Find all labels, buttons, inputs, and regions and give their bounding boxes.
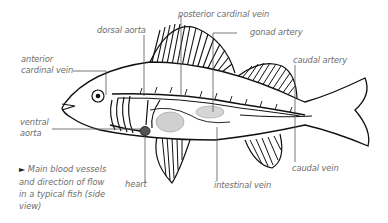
label-anterior-line2: cardinal vein (21, 65, 73, 76)
caption-arrow-icon: ► (19, 165, 25, 174)
label-intestinal-vein: intestinal vein (214, 180, 271, 191)
label-heart: heart (125, 179, 147, 190)
pelvic-fin (156, 133, 190, 183)
label-dorsal-aorta: dorsal aorta (97, 25, 146, 36)
figure-caption: ► Main blood vessels and direction of fl… (19, 163, 114, 212)
intestine (156, 112, 184, 132)
heart-shape (140, 127, 150, 136)
label-posterior-cardinal-vein: posterior cardinal vein (178, 9, 269, 20)
gonad (196, 106, 224, 118)
label-caudal-artery: caudal artery (293, 55, 347, 66)
anal-fin (245, 134, 282, 168)
label-ventral-line1: ventral (20, 117, 49, 128)
label-ventral-line2: aorta (20, 128, 41, 139)
label-caudal-vein: caudal vein (292, 163, 339, 174)
caption-text: Main blood vessels and direction of flow… (19, 164, 106, 211)
label-anterior-line1: anterior (21, 54, 53, 65)
label-gonad-artery: gonad artery (250, 27, 303, 38)
